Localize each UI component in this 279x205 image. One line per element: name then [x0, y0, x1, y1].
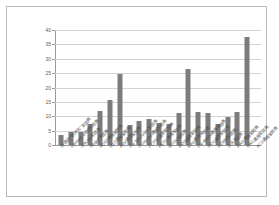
y-tick-label-30: 30 [45, 56, 51, 61]
tick-mark-15 [52, 102, 55, 103]
tick-mark-20 [52, 88, 55, 89]
bar-slot [105, 30, 115, 145]
tick-mark-40 [52, 30, 55, 31]
y-tick-label-15: 15 [45, 99, 51, 104]
bar-slot [56, 30, 66, 145]
y-tick-label-35: 35 [45, 42, 51, 47]
bar-slot [242, 30, 252, 145]
y-tick-label-25: 25 [45, 71, 51, 76]
tick-mark-25 [52, 73, 55, 74]
y-tick-label-20: 20 [45, 85, 51, 90]
bar-slot [184, 30, 194, 145]
y-tick-label-40: 40 [45, 28, 51, 33]
y-tick-label-10: 10 [45, 114, 51, 119]
category-axis-labels: 所谓的 “非洲化” 军团类Ultimate 1000军团类3PA.NV军团类Na… [56, 146, 266, 204]
chart-frame: 0510152025303540 所谓的 “非洲化” 军团类Ultimate 1… [6, 6, 267, 197]
tick-mark-5 [52, 131, 55, 132]
tick-mark-10 [52, 116, 55, 117]
tick-mark-30 [52, 59, 55, 60]
y-tick-label-0: 0 [48, 143, 51, 148]
bar[interactable] [245, 37, 250, 145]
tick-mark-0 [52, 145, 55, 146]
bar-slot [66, 30, 76, 145]
y-tick-label-5: 5 [48, 128, 51, 133]
tick-mark-35 [52, 44, 55, 45]
